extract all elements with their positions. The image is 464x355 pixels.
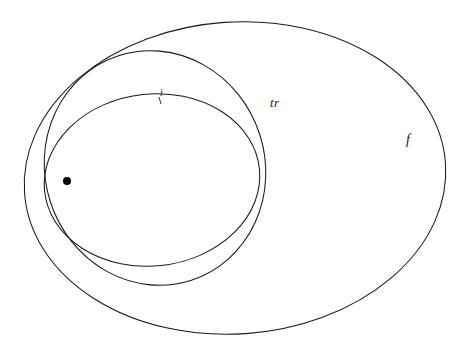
outer-ellipse-f xyxy=(14,8,457,349)
diagram-canvas-root: i tr f xyxy=(0,0,464,355)
outer-region-label: f xyxy=(406,133,410,147)
inner-region-label: i xyxy=(160,88,163,98)
ellipse-diagram-svg xyxy=(0,0,464,355)
marked-point-dot xyxy=(63,177,71,185)
middle-ellipse-tr xyxy=(14,22,296,314)
inner-label-tick-icon xyxy=(159,97,161,104)
middle-region-label: tr xyxy=(270,96,279,109)
